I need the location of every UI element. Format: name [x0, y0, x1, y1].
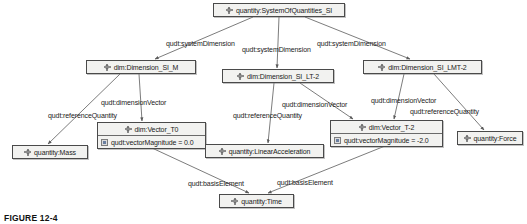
node-vector-t-2[interactable]: dim:Vector_T-2qudt:vectorMagnitude = -2.… [330, 120, 443, 147]
node-label: quantity:Force [474, 135, 517, 142]
node-title-quantity-time: quantity:Time [220, 195, 293, 207]
node-quantity-mass[interactable]: quantity:Mass [12, 145, 88, 159]
class-node-icon [237, 73, 244, 80]
class-node-icon [464, 135, 471, 142]
attribute-icon [334, 137, 341, 144]
node-label: dim:Dimension_SI_M [114, 64, 179, 71]
node-title-system-of-quantities-si: quantity:SystemOfQuantities_SI [214, 4, 344, 16]
edge-label-edge-dim-si-lt-2-reference-quantity: qudt:referenceQuantity [233, 112, 302, 119]
edge-label-edge-dim-si-m-reference-quantity: qudt:referenceQuantity [48, 112, 117, 119]
node-label: dim:Dimension_SI_LMT-2 [388, 64, 466, 71]
attribute-label: qudt:vectorMagnitude = 0.0 [111, 139, 193, 146]
edge-label-edge-soq-to-dim-si-lmt-2: qudt:systemDimension [317, 40, 386, 47]
node-title-quantity-linear-acceleration: quantity:LinearAcceleration [206, 145, 323, 157]
edge-soq-to-dim-si-lt-2 [277, 17, 279, 68]
class-node-icon [219, 148, 226, 155]
edge-label-edge-dim-si-lmt-2-reference-quantity: qudt:referenceQuantity [410, 108, 479, 115]
node-title-vector-t-2: dim:Vector_T-2 [331, 121, 442, 134]
figure-diagram-canvas: quantity:SystemOfQuantities_SIdim:Dimens… [0, 0, 527, 224]
edge-dim-si-m-dimension-vector [139, 74, 142, 121]
figure-caption: FIGURE 12-4 [4, 213, 58, 223]
edge-label-edge-soq-to-dim-si-m: qudt:systemDimension [166, 40, 235, 47]
attribute-label: qudt:vectorMagnitude = -2.0 [344, 137, 429, 144]
node-dimension-si-m[interactable]: dim:Dimension_SI_M [86, 60, 196, 74]
attribute-row: qudt:vectorMagnitude = -2.0 [331, 134, 442, 146]
edge-label-edge-dim-si-lt-2-dimension-vector: qudt:dimensionVector [282, 101, 347, 108]
node-label: quantity:Mass [34, 149, 76, 156]
node-label: quantity:SystemOfQuantities_SI [236, 7, 332, 14]
node-label: quantity:LinearAcceleration [229, 148, 311, 155]
node-title-quantity-mass: quantity:Mass [13, 146, 87, 158]
node-vector-t0[interactable]: dim:Vector_T0qudt:vectorMagnitude = 0.0 [97, 122, 206, 149]
class-node-icon [104, 64, 111, 71]
edge-label-edge-soq-to-dim-si-lt-2: qudt:systemDimension [242, 46, 311, 53]
class-node-icon [226, 7, 233, 14]
edge-label-edge-dim-si-m-dimension-vector: qudt:dimensionVector [101, 99, 166, 106]
node-label: dim:Vector_T0 [135, 126, 179, 133]
class-node-icon [359, 124, 366, 131]
class-node-icon [24, 149, 31, 156]
edge-label-edge-vector-t0-basis-element: qudt:basisElement [188, 180, 244, 187]
node-title-quantity-force: quantity:Force [458, 132, 522, 144]
node-system-of-quantities-si[interactable]: quantity:SystemOfQuantities_SI [213, 3, 345, 17]
class-node-icon [125, 126, 132, 133]
node-title-dimension-si-lt-2: dim:Dimension_SI_LT-2 [223, 70, 333, 82]
node-title-vector-t0: dim:Vector_T0 [98, 123, 205, 136]
node-label: quantity:Time [241, 198, 281, 205]
node-label: dim:Vector_T-2 [369, 124, 415, 131]
node-quantity-linear-acceleration[interactable]: quantity:LinearAcceleration [205, 144, 324, 158]
class-node-icon [378, 64, 385, 71]
node-title-dimension-si-m: dim:Dimension_SI_M [87, 61, 195, 73]
node-quantity-time[interactable]: quantity:Time [219, 194, 294, 208]
attribute-row: qudt:vectorMagnitude = 0.0 [98, 136, 205, 148]
node-label: dim:Dimension_SI_LT-2 [247, 73, 319, 80]
edge-label-edge-vector-t-2-basis-element: qudt:basisElement [277, 179, 333, 186]
attribute-icon [101, 139, 108, 146]
edge-label-edge-dim-si-lmt-2-dimension-vector: qudt:dimensionVector [371, 97, 436, 104]
node-title-dimension-si-lmt-2: dim:Dimension_SI_LMT-2 [364, 61, 481, 73]
class-node-icon [231, 198, 238, 205]
node-dimension-si-lt-2[interactable]: dim:Dimension_SI_LT-2 [222, 69, 334, 83]
node-dimension-si-lmt-2[interactable]: dim:Dimension_SI_LMT-2 [363, 60, 482, 74]
node-quantity-force[interactable]: quantity:Force [457, 131, 523, 145]
edge-soq-to-dim-si-lmt-2 [305, 17, 410, 59]
edge-soq-to-dim-si-m [155, 17, 253, 59]
